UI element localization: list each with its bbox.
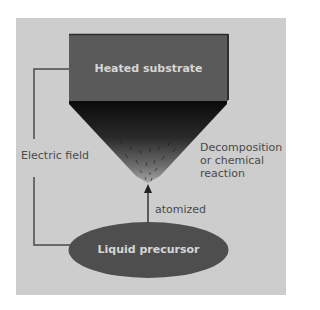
reaction-label-line-1: Decomposition <box>200 141 282 154</box>
atomized-label: atomized <box>155 204 206 215</box>
electric-field-line-lower <box>34 177 72 245</box>
reaction-label: Decomposition or chemical reaction <box>200 141 282 180</box>
reaction-label-line-2: or chemical <box>200 154 282 167</box>
electric-field-label: Electric field <box>21 150 89 161</box>
reaction-label-line-3: reaction <box>200 167 282 180</box>
liquid-precursor-label: Liquid precursor <box>69 244 228 255</box>
arrow-up-icon <box>144 184 152 193</box>
heated-substrate-label: Heated substrate <box>69 63 228 74</box>
electric-field-line-upper <box>34 69 69 139</box>
